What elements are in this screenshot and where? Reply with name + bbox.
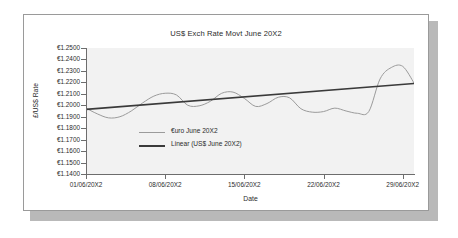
legend-label: €uro June 20X2: [171, 127, 218, 134]
chart-screenshot: US$ Exch Rate Movt June 20X2 €1.2500€1.2…: [0, 0, 458, 238]
x-axis-line: [86, 174, 415, 175]
x-axis-tick: [403, 175, 404, 179]
x-axis-tick: [165, 175, 166, 179]
plot-svg: [86, 48, 414, 174]
y-axis-tick: [81, 94, 86, 95]
chart-card: US$ Exch Rate Movt June 20X2 €1.2500€1.2…: [23, 14, 429, 211]
y-axis-tick-label: €1.2500: [40, 44, 80, 51]
legend-swatch-trend: [139, 145, 165, 147]
y-axis-tick-label: €1.1500: [40, 159, 80, 166]
plot-area-frame: [86, 48, 414, 174]
x-axis-tick-label: 22/06/20X2: [292, 181, 356, 188]
y-axis-tick: [81, 163, 86, 164]
y-axis-tick-label: €1.1800: [40, 124, 80, 131]
y-axis-tick-label: €1.2000: [40, 101, 80, 108]
x-axis-title: Date: [86, 195, 415, 202]
y-axis-tick-label: €1.2200: [40, 78, 80, 85]
y-axis-tick: [81, 128, 86, 129]
trend-line-linear: [86, 84, 414, 110]
x-axis-tick-label: 01/06/20X2: [54, 181, 118, 188]
x-axis-tick-label: 08/06/20X2: [133, 181, 197, 188]
x-axis-tick-label: 29/06/20X2: [371, 181, 435, 188]
y-axis-tick: [81, 140, 86, 141]
y-axis-tick: [81, 71, 86, 72]
y-axis-tick: [81, 105, 86, 106]
y-axis-tick-label: €1.1900: [40, 113, 80, 120]
y-axis-tick-label: €1.1400: [40, 170, 80, 177]
y-axis-tick-label: €1.1600: [40, 147, 80, 154]
y-axis-line: [86, 48, 87, 175]
x-axis-tick-label: 15/06/20X2: [212, 181, 276, 188]
y-axis-tick-label: €1.2300: [40, 67, 80, 74]
y-axis-tick: [81, 82, 86, 83]
x-axis-tick: [86, 175, 87, 179]
x-axis-tick: [324, 175, 325, 179]
y-axis-tick-label: €1.2100: [40, 90, 80, 97]
legend-label: Linear (US$ June 20X2): [171, 140, 242, 147]
x-axis-tick: [244, 175, 245, 179]
y-axis-tick: [81, 117, 86, 118]
chart-title: US$ Exch Rate Movt June 20X2: [24, 29, 428, 38]
y-axis-tick-label: €1.1700: [40, 136, 80, 143]
y-axis-tick: [81, 151, 86, 152]
y-axis-tick: [81, 48, 86, 49]
y-axis-title: £/US$ Rate: [32, 68, 39, 134]
y-axis-tick: [81, 59, 86, 60]
y-axis-tick-label: €1.2400: [40, 55, 80, 62]
series-line-euro: [86, 65, 414, 118]
legend-swatch-series: [139, 132, 165, 133]
